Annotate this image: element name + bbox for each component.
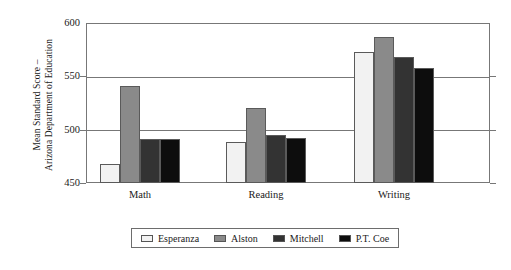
x-axis-category-label: Math <box>100 189 180 200</box>
bar <box>286 138 306 183</box>
chart-legend: EsperanzaAlstonMitchellP.T. Coe <box>131 228 399 248</box>
bar <box>226 142 246 183</box>
bar <box>266 135 286 183</box>
bar <box>246 108 266 183</box>
legend-item: Mitchell <box>273 233 324 244</box>
bar <box>100 164 120 183</box>
legend-swatch-icon <box>214 235 226 242</box>
y-axis-title-line-2: Arizona Department of Education <box>43 5 55 205</box>
y-tick-mark-left <box>80 183 86 184</box>
legend-item: Alston <box>214 233 258 244</box>
legend-item: Esperanza <box>141 233 199 244</box>
y-tick-mark-right <box>490 76 496 77</box>
bar-chart: Mean Standard Score – Arizona Department… <box>0 0 511 270</box>
legend-swatch-icon <box>141 235 153 242</box>
legend-label: P.T. Coe <box>356 233 389 244</box>
bar <box>120 86 140 183</box>
y-axis-title-line-1: Mean Standard Score – <box>31 5 43 205</box>
bar <box>394 57 414 183</box>
y-axis-title: Mean Standard Score – Arizona Department… <box>31 5 55 205</box>
bar <box>140 139 160 183</box>
y-tick-mark-right <box>490 130 496 131</box>
legend-label: Esperanza <box>158 233 199 244</box>
y-tick-mark-right <box>490 183 496 184</box>
x-axis-category-label: Writing <box>354 189 434 200</box>
legend-swatch-icon <box>339 235 351 242</box>
legend-label: Mitchell <box>290 233 324 244</box>
x-axis-category-label: Reading <box>226 189 306 200</box>
bars-layer <box>86 23 490 183</box>
legend-label: Alston <box>231 233 258 244</box>
y-tick-label: 550 <box>36 71 80 81</box>
y-tick-label: 450 <box>36 178 80 188</box>
legend-item: P.T. Coe <box>339 233 389 244</box>
legend-swatch-icon <box>273 235 285 242</box>
bar <box>354 52 374 183</box>
y-tick-label: 600 <box>36 18 80 28</box>
y-tick-label: 500 <box>36 125 80 135</box>
bar <box>414 68 434 183</box>
bar <box>160 139 180 183</box>
bar <box>374 37 394 183</box>
